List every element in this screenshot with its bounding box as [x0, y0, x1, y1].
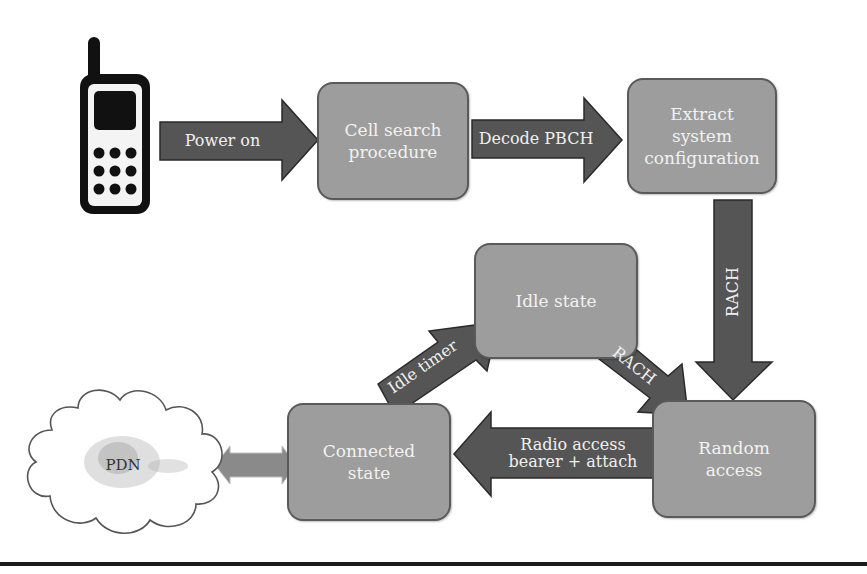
decode-pbch-label: Decode PBCH — [476, 130, 596, 148]
cell-search-box: Cell search procedure — [317, 82, 469, 200]
pdn-label: PDN — [98, 456, 148, 474]
radio-access-label: Radio access bearer + attach — [492, 436, 654, 470]
cell-search-label: Cell search procedure — [345, 119, 442, 163]
rach-down-label: RACH — [724, 262, 742, 322]
bottom-rule — [0, 562, 867, 566]
extract-config-label: Extract system configuration — [644, 103, 760, 169]
random-access-box: Random access — [652, 400, 816, 518]
connected-state-label: Connected state — [323, 440, 416, 484]
extract-config-box: Extract system configuration — [627, 78, 777, 194]
connected-state-box: Connected state — [287, 403, 451, 521]
power-on-label: Power on — [165, 132, 280, 150]
pdn-bidirectional-arrow — [215, 446, 296, 484]
random-access-label: Random access — [698, 437, 770, 481]
lte-attach-flow-diagram: Cell search procedure Extract system con… — [0, 0, 867, 574]
idle-state-label: Idle state — [515, 290, 596, 312]
